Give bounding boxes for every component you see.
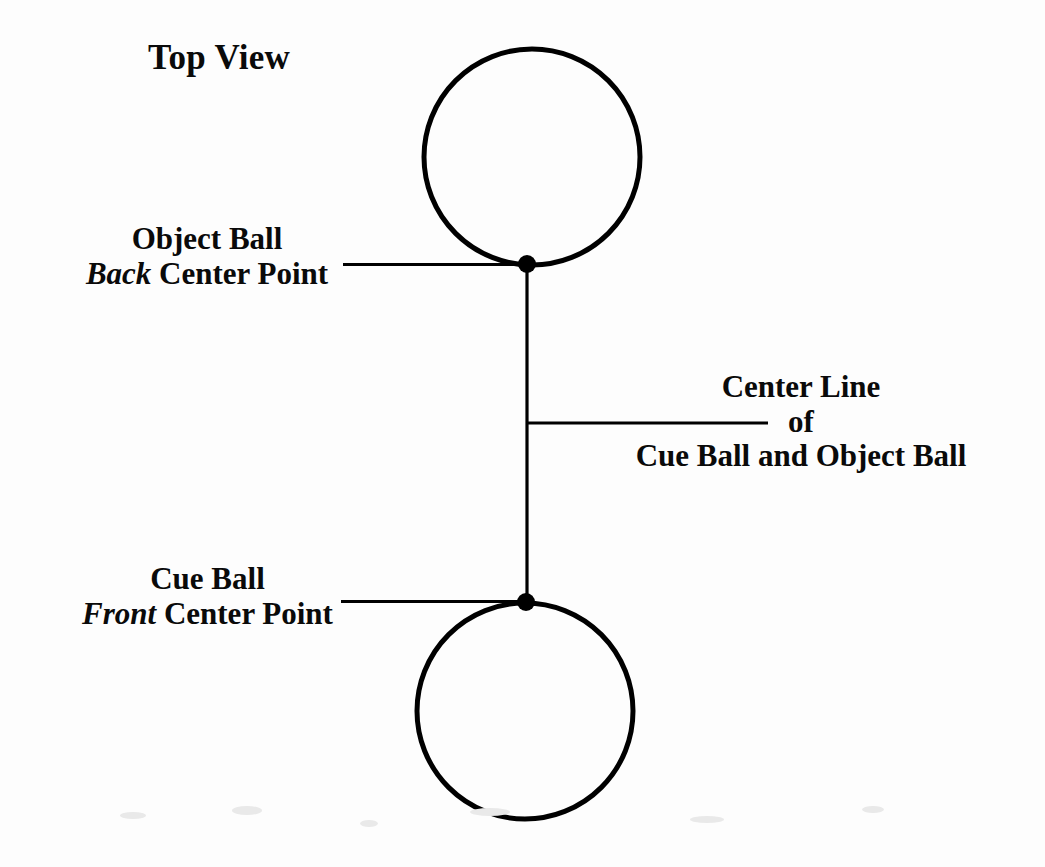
cue-ball-circle <box>417 603 633 819</box>
cue-ball-label-emphasis: Front <box>82 596 156 631</box>
diagram-canvas: Top View Object Ball Back Center Point C… <box>0 0 1045 867</box>
object-ball-label-rest-text: Center Point <box>159 256 328 291</box>
object-ball-label-line1: Object Ball <box>42 222 372 257</box>
cue-ball-callout-label: Cue Ball Front Center Point <box>40 562 375 631</box>
object-ball-circle <box>424 49 640 265</box>
object-ball-label-line2: Back Center Point <box>42 257 372 292</box>
page-title: Top View <box>148 38 290 77</box>
cue-ball-front-center-point-dot <box>517 593 535 611</box>
object-ball-back-center-point-dot <box>518 255 536 273</box>
center-line-label-line3: Cue Ball and Object Ball <box>592 439 1010 474</box>
cue-ball-label-line2: Front Center Point <box>40 597 375 632</box>
center-line-callout-label: Center Line of Cue Ball and Object Ball <box>592 370 1010 474</box>
object-ball-label-emphasis: Back <box>86 256 151 291</box>
center-line-label-line2: of <box>592 405 1010 440</box>
cue-ball-label-space <box>156 596 164 631</box>
cue-ball-label-rest-text: Center Point <box>164 596 333 631</box>
center-line-label-line1: Center Line <box>592 370 1010 405</box>
cue-ball-label-line1: Cue Ball <box>40 562 375 597</box>
object-ball-callout-label: Object Ball Back Center Point <box>42 222 372 291</box>
object-ball-label-rest <box>151 256 159 291</box>
